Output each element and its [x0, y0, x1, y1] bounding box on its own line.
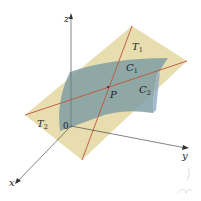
label-p: P — [109, 89, 117, 100]
point-p-marker — [107, 86, 109, 88]
z-axis-arrowhead — [69, 13, 73, 19]
x-axis — [17, 126, 71, 182]
handwriting-mark — [178, 168, 192, 193]
x-axis-label: x — [9, 177, 15, 188]
tangent-plane-diagram: z x y 0 T1 C1 C2 T2 P — [0, 0, 201, 201]
y-axis-label: y — [181, 150, 188, 161]
z-axis-label: z — [63, 13, 70, 24]
origin-label: 0 — [63, 121, 69, 131]
